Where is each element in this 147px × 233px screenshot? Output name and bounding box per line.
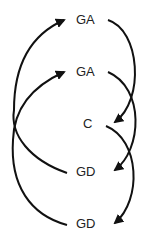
arrow-gd2-to-ga2 [13,72,67,225]
arrow-gd1-to-ga1 [13,20,67,173]
arrows-layer [0,0,147,233]
arrow-ga1-to-c [108,20,135,122]
arrow-c-to-gd2 [106,126,134,223]
